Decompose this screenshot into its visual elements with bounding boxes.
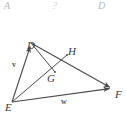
vector-label-v: v: [12, 61, 16, 69]
vector-label-w: w: [61, 98, 67, 106]
vertex-label-h: H: [68, 46, 76, 57]
header-letter-a: A: [4, 0, 10, 12]
header-letter-d: D: [98, 0, 105, 12]
header-letter-row: A ? D: [0, 0, 126, 16]
vertex-label-g: G: [47, 73, 55, 84]
vertex-label-f: F: [115, 89, 122, 100]
vertex-label-d: D: [27, 40, 35, 51]
header-letter-middle: ?: [52, 0, 57, 12]
vertex-label-e: E: [5, 102, 12, 113]
geometry-figure: D E F H G v w: [0, 16, 126, 113]
figure-edges: [12, 43, 110, 102]
diagram-canvas: A ? D D E F H: [0, 0, 126, 113]
